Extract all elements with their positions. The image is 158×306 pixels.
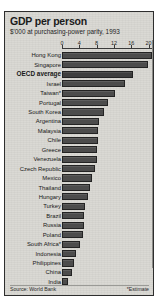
bar bbox=[62, 184, 90, 191]
bar bbox=[62, 241, 80, 248]
bar-row: Philippines bbox=[5, 259, 153, 268]
x-axis-tick bbox=[97, 45, 98, 48]
chart-subtitle: $'000 at purchasing-power parity, 1993 bbox=[10, 28, 149, 36]
bar bbox=[62, 108, 104, 115]
chart-panel: GDP per person $'000 at purchasing-power… bbox=[4, 11, 154, 296]
x-axis-tick bbox=[149, 45, 150, 48]
bar-row: Poland bbox=[5, 230, 153, 239]
source-note: Source: World Bank bbox=[10, 286, 56, 292]
bar-row: Mexico bbox=[5, 174, 153, 183]
bar-row-label: Mexico bbox=[42, 174, 61, 182]
bar-row-label: Taiwan* bbox=[40, 89, 61, 97]
bar-row: South Africa* bbox=[5, 240, 153, 249]
plot-right-rule bbox=[152, 40, 153, 268]
bar-row: Portugal bbox=[5, 98, 153, 107]
bar bbox=[62, 61, 148, 68]
bar-row: Chile bbox=[5, 136, 153, 145]
bar-row-label: Israel bbox=[47, 80, 61, 88]
x-axis-tick bbox=[114, 45, 115, 48]
bar bbox=[62, 212, 84, 219]
bar-row: Argentina bbox=[5, 117, 153, 126]
bar bbox=[62, 193, 88, 200]
bar-row: Greece bbox=[5, 145, 153, 154]
bar bbox=[62, 156, 97, 163]
bar bbox=[62, 52, 152, 59]
bar-row-label: Venezuela bbox=[33, 155, 61, 163]
x-axis-line bbox=[62, 48, 153, 49]
bar-row: Brazil bbox=[5, 211, 153, 220]
bar-row-label: Brazil bbox=[46, 212, 61, 220]
x-axis-tick bbox=[131, 45, 132, 48]
chart-footer: Source: World Bank *Estimate bbox=[10, 284, 149, 292]
bar-row-label: Turkey bbox=[43, 202, 61, 210]
bar-row-label: Thailand bbox=[38, 184, 61, 192]
plot-area: 048121620 Hong KongSingaporeOECD average… bbox=[5, 40, 153, 268]
bar bbox=[62, 269, 72, 276]
bar-row: Thailand bbox=[5, 183, 153, 192]
bar bbox=[62, 118, 99, 125]
gdp-per-person-chart-figure: GDP per person $'000 at purchasing-power… bbox=[0, 0, 158, 306]
bar-row-label: Russia bbox=[43, 221, 61, 229]
bar-row: Malaysia bbox=[5, 127, 153, 136]
bar-row-label: Poland bbox=[43, 231, 61, 239]
bar-row: Venezuela bbox=[5, 155, 153, 164]
bar bbox=[62, 203, 85, 210]
bar-row: Taiwan* bbox=[5, 89, 153, 98]
chart-header: GDP per person $'000 at purchasing-power… bbox=[10, 16, 149, 36]
bar-row-label: South Korea bbox=[28, 108, 61, 116]
bar-row-label: Hungary bbox=[39, 193, 61, 201]
estimate-note: *Estimate bbox=[127, 286, 149, 292]
bar bbox=[62, 165, 95, 172]
bar-row: Singapore bbox=[5, 60, 153, 69]
x-axis-tick bbox=[79, 45, 80, 48]
bar bbox=[62, 137, 98, 144]
bar-rows: Hong KongSingaporeOECD averageIsraelTaiw… bbox=[5, 51, 153, 287]
bar-row-label: Argentina bbox=[36, 117, 61, 125]
bar-row: Hong Kong bbox=[5, 51, 153, 60]
bar-row-label: Malaysia bbox=[38, 127, 61, 135]
bar-row: Indonesia bbox=[5, 249, 153, 258]
bar-row: Israel bbox=[5, 79, 153, 88]
bar-row-label: Philippines bbox=[33, 259, 62, 267]
bar-row-label: South Africa* bbox=[27, 240, 61, 248]
bar bbox=[62, 146, 97, 153]
bar bbox=[62, 174, 92, 181]
chart-title: GDP per person bbox=[10, 16, 149, 27]
bar-row-label: Portugal bbox=[39, 99, 61, 107]
bar bbox=[62, 90, 115, 97]
bar-row: South Korea bbox=[5, 108, 153, 117]
bar bbox=[62, 259, 74, 266]
bar bbox=[62, 231, 83, 238]
bar bbox=[62, 250, 76, 257]
bar bbox=[62, 80, 125, 87]
bar-row-label: OECD average bbox=[17, 70, 61, 78]
bar-row-label: Hong Kong bbox=[32, 51, 61, 59]
bar bbox=[62, 99, 108, 106]
bar-row: OECD average bbox=[5, 70, 153, 79]
bar-row: Czech Republic bbox=[5, 164, 153, 173]
bar-row-label: Chile bbox=[48, 136, 61, 144]
bar-row: Russia bbox=[5, 221, 153, 230]
x-axis-tick bbox=[62, 45, 63, 48]
bar-row: Hungary bbox=[5, 193, 153, 202]
bar-row: China bbox=[5, 268, 153, 277]
bar bbox=[62, 127, 98, 134]
bar-row-label: Singapore bbox=[34, 61, 61, 69]
bar-row-label: Greece bbox=[42, 146, 61, 154]
bar-row-label: China bbox=[46, 268, 61, 276]
bar-row: Turkey bbox=[5, 202, 153, 211]
bar-row-label: Czech Republic bbox=[20, 165, 61, 173]
bar-row-label: Indonesia bbox=[35, 250, 61, 258]
bar bbox=[62, 71, 133, 78]
bar bbox=[62, 222, 84, 229]
